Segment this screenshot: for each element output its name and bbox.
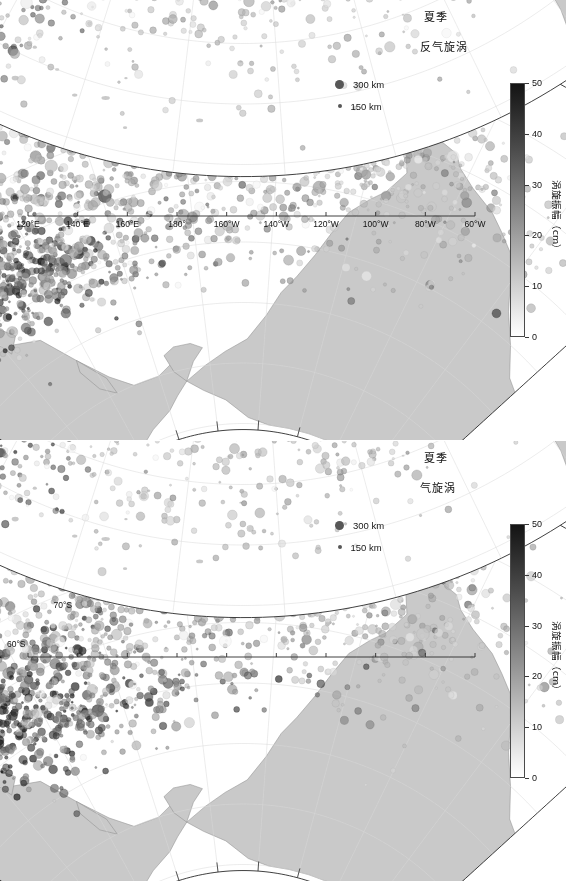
- legend-row-large: 300 km: [334, 517, 384, 533]
- colorbar-tick-label: 30: [532, 621, 542, 631]
- panel-cyclonic: 夏季 气旋涡 300 km 150 km 涡旋振幅（cm） 0102030405…: [0, 441, 566, 881]
- colorbar-tick: [525, 524, 529, 525]
- size-legend: 300 km 150 km: [334, 517, 430, 559]
- lon-tick-label: 160°W: [214, 219, 240, 229]
- colorbar-title: 涡旋振幅（cm）: [550, 180, 564, 254]
- lon-tick-label: 120°W: [313, 219, 339, 229]
- legend-row-small: 150 km: [334, 539, 382, 555]
- colorbar-gradient: [510, 524, 525, 778]
- colorbar-tick-label: 10: [532, 722, 542, 732]
- large-dot-icon: [335, 521, 344, 530]
- lon-tick-label: 100°W: [363, 219, 389, 229]
- size-legend: 300 km 150 km: [334, 76, 430, 118]
- legend-row-small: 150 km: [334, 98, 382, 114]
- colorbar-tick: [525, 575, 529, 576]
- legend-label-large: 300 km: [353, 79, 384, 90]
- lat-tick-label: 70°S: [38, 600, 72, 610]
- colorbar-tick-label: 0: [532, 773, 537, 783]
- colorbar-tick-label: 20: [532, 230, 542, 240]
- colorbar-title: 涡旋振幅（cm）: [550, 621, 564, 695]
- lon-tick-label: 80°W: [415, 219, 436, 229]
- colorbar-tick-label: 50: [532, 78, 542, 88]
- colorbar-tick: [525, 727, 529, 728]
- colorbar-gradient: [510, 83, 525, 337]
- legend-label-small: 150 km: [351, 101, 382, 112]
- lon-tick-label: 180°: [168, 219, 186, 229]
- lon-tick-label: 60°W: [465, 219, 486, 229]
- small-dot-icon: [338, 104, 342, 108]
- colorbar-tick: [525, 83, 529, 84]
- lon-tick-label: 140°W: [264, 219, 290, 229]
- colorbar-tick: [525, 626, 529, 627]
- colorbar-tick-label: 40: [532, 129, 542, 139]
- large-dot-icon: [335, 80, 344, 89]
- colorbar-tick-label: 0: [532, 332, 537, 342]
- lat-tick-label: 60°S: [0, 639, 26, 649]
- legend-label-small: 150 km: [351, 542, 382, 553]
- lon-tick-label: 120°E: [16, 219, 39, 229]
- legend-label-large: 300 km: [353, 520, 384, 531]
- colorbar-tick: [525, 286, 529, 287]
- colorbar-tick: [525, 778, 529, 779]
- map-cyclonic: [0, 441, 566, 881]
- panel-anticyclonic: 夏季 反气旋涡 300 km 150 km 涡旋振幅（cm） 010203040…: [0, 0, 566, 440]
- panel-season-label: 夏季: [424, 8, 448, 24]
- colorbar-tick-label: 50: [532, 519, 542, 529]
- panel-type-label: 气旋涡: [420, 479, 456, 495]
- colorbar-tick: [525, 185, 529, 186]
- lon-tick-label: 160°E: [116, 219, 139, 229]
- panel-season-label: 夏季: [424, 449, 448, 465]
- colorbar-tick-label: 20: [532, 671, 542, 681]
- colorbar-tick: [525, 235, 529, 236]
- colorbar-tick: [525, 134, 529, 135]
- legend-row-large: 300 km: [334, 76, 384, 92]
- colorbar-tick: [525, 337, 529, 338]
- small-dot-icon: [338, 545, 342, 549]
- colorbar-tick-label: 10: [532, 281, 542, 291]
- colorbar-tick-label: 30: [532, 180, 542, 190]
- colorbar-tick-label: 40: [532, 570, 542, 580]
- lon-tick-label: 140°E: [66, 219, 89, 229]
- panel-type-label: 反气旋涡: [420, 38, 468, 54]
- colorbar-tick: [525, 676, 529, 677]
